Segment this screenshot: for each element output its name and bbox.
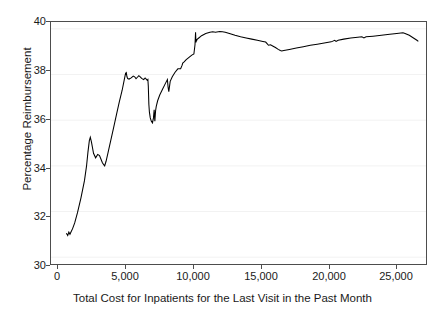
x-tick-label-25000: 25,000 xyxy=(379,271,413,282)
chart-figure: 40 38 36 34 32 30 Percentage Reimburseme… xyxy=(0,0,445,322)
x-tick-label-0: 0 xyxy=(54,271,60,282)
x-tick-mark-25000 xyxy=(396,265,397,269)
gridlines xyxy=(51,29,426,257)
x-axis-title: Total Cost for Inpatients for the Last V… xyxy=(0,292,445,304)
x-tick-mark-10000 xyxy=(193,265,194,269)
x-tick-mark-5000 xyxy=(125,265,126,269)
x-tick-label-15000: 15,000 xyxy=(244,271,278,282)
chart-canvas xyxy=(51,22,426,264)
y-tick-label-40: 40 xyxy=(22,16,46,27)
y-tick-label-32: 32 xyxy=(22,211,46,222)
x-tick-mark-0 xyxy=(57,265,58,269)
x-tick-mark-15000 xyxy=(261,265,262,269)
x-tick-mark-20000 xyxy=(329,265,330,269)
x-tick-label-5000: 5,000 xyxy=(111,271,139,282)
plot-area xyxy=(50,21,427,265)
y-tick-label-30: 30 xyxy=(22,260,46,271)
y-tick-mark-30 xyxy=(46,265,50,266)
x-tick-label-10000: 10,000 xyxy=(176,271,210,282)
x-tick-label-20000: 20,000 xyxy=(312,271,346,282)
y-axis-title: Percentage Reimbursement xyxy=(21,29,33,209)
data-line-percentage-reimbursement xyxy=(66,32,418,236)
